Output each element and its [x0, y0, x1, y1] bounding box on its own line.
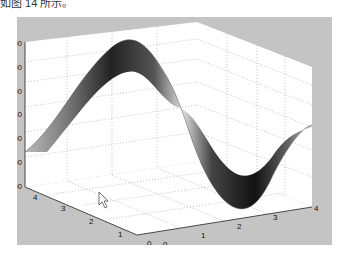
x-tick: 1 [201, 231, 206, 240]
z-tick: -100 [17, 134, 23, 143]
z-tick: 200 [17, 63, 23, 72]
back-wall-left [25, 22, 197, 187]
y-tick: 4 [33, 193, 38, 202]
surface-plot: 300 200 100 0 -100 -200 -300 4 3 2 1 0 0… [17, 17, 332, 245]
x-tick: 2 [237, 222, 242, 231]
x-tick: 0 [163, 240, 168, 245]
z-tick: 0 [18, 110, 23, 119]
y-tick: 2 [89, 217, 94, 226]
y-tick: 3 [61, 204, 66, 213]
z-tick: -300 [17, 182, 23, 191]
y-tick: 0 [147, 239, 152, 245]
z-tick: 100 [17, 87, 23, 96]
x-tick: 4 [314, 204, 319, 213]
z-tick: 300 [17, 39, 23, 48]
figure-caption: 如图 14 所示。 [0, 0, 73, 10]
figure-panel: 300 200 100 0 -100 -200 -300 4 3 2 1 0 0… [17, 17, 332, 245]
y-tick: 1 [118, 230, 123, 239]
x-tick: 3 [273, 213, 278, 222]
z-tick: -200 [17, 158, 23, 167]
